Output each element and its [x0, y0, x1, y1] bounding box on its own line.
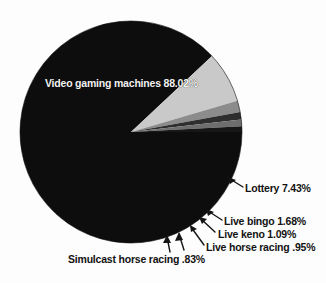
slice-label-video-gaming-machines: Video gaming machines 88.02%	[45, 77, 198, 89]
pie-chart: Video gaming machines 88.02% Lottery 7.4…	[0, 0, 326, 283]
slice-label-lottery: Lottery 7.43%	[245, 182, 311, 194]
slice-label-simulcast-horse-racing: Simulcast horse racing .83%	[68, 253, 205, 265]
slice-label-live-keno: Live keno 1.09%	[218, 228, 296, 240]
pie-slice-video-gaming-machines	[20, 21, 242, 243]
slice-label-live-horse-racing: Live horse racing .95%	[206, 241, 315, 253]
slice-label-live-bingo: Live bingo 1.68%	[224, 215, 306, 227]
